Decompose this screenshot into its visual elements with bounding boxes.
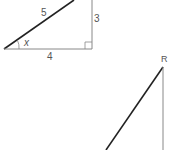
right-angle-marker (85, 42, 92, 49)
angle-x-label: x (24, 38, 29, 48)
angle-arc (18, 41, 20, 50)
vertical-leg-length-label: 3 (94, 14, 100, 24)
triangle-2 (106, 67, 163, 150)
hypotenuse-length-label: 5 (41, 8, 47, 18)
triangle-1-hypotenuse (4, 0, 74, 49)
triangle-1 (4, 0, 92, 49)
vertex-r-label: R (161, 55, 168, 64)
triangle-2-hypotenuse (106, 67, 163, 150)
base-length-label: 4 (47, 52, 53, 62)
